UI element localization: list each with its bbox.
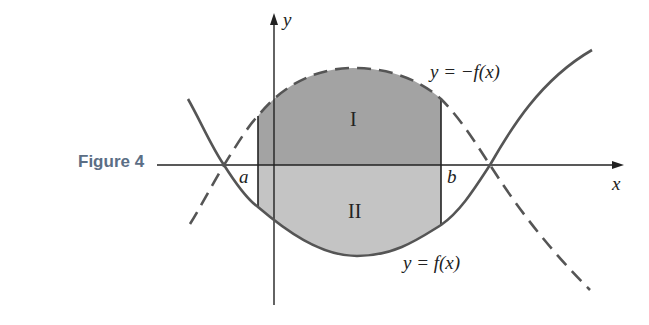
y-axis-label: y (281, 9, 292, 30)
point-b-label: b (447, 166, 457, 187)
y-axis-arrow-icon (270, 13, 278, 25)
curve-neg-f-label: y = −f(x) (428, 61, 500, 83)
point-a-label: a (239, 166, 249, 187)
figure-container: Figure 4 y x a b I II y = −f(x) y = f(x) (0, 0, 649, 325)
region-i-label: I (350, 108, 357, 130)
curve-f-label: y = f(x) (401, 252, 460, 274)
x-axis-label: x (611, 173, 621, 194)
diagram-canvas: y x a b I II y = −f(x) y = f(x) (0, 0, 649, 325)
region-ii-label: II (348, 200, 361, 222)
x-axis-arrow-icon (612, 161, 624, 169)
